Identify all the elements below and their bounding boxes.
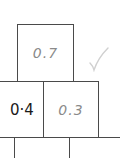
pyramid-middle-right-cell[interactable]: 0.3 [43,81,99,138]
bottom-row-divider-right [69,137,70,158]
middle-right-value: 0.3 [58,102,83,118]
top-cell-value: 0.7 [33,45,58,61]
bottom-row-top-border [0,137,120,138]
pyramid-top-cell[interactable]: 0.7 [17,24,74,82]
middle-left-value: 0·4 [10,101,34,119]
bottom-row-divider-left [14,137,15,158]
pyramid-middle-left-cell: 0·4 [0,81,44,138]
check-mark-icon [88,46,110,72]
